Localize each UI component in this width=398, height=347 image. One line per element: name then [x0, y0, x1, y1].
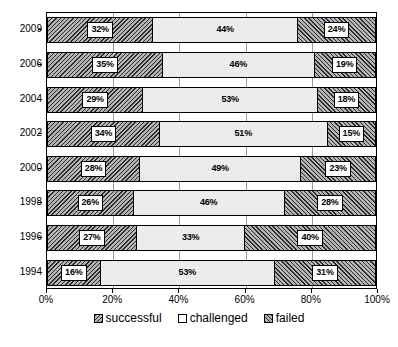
stacked-bar-chart: 20092006200420022000199819961994 32%44%2…	[0, 0, 398, 347]
data-label: 15%	[339, 126, 364, 142]
bar-segment-successful: 32%	[47, 17, 152, 43]
legend-swatch-successful-icon	[94, 314, 103, 323]
y-axis-tick	[38, 272, 42, 273]
data-label: 19%	[332, 57, 357, 73]
y-axis-label-1998: 1998	[2, 197, 42, 207]
data-label: 53%	[217, 92, 242, 108]
data-label: 24%	[324, 22, 349, 38]
bar-segment-failed: 18%	[317, 87, 376, 113]
y-axis-tick	[38, 237, 42, 238]
bar-segment-successful: 35%	[47, 52, 162, 78]
y-axis-tick	[38, 64, 42, 65]
bar-segment-failed: 19%	[314, 52, 377, 78]
legend-label: challenged	[190, 312, 248, 324]
bar-row: 16%53%31%	[47, 260, 376, 286]
bar-segment-failed: 15%	[327, 121, 376, 147]
x-axis-tick	[245, 289, 246, 293]
plot-inner: 32%44%24%35%46%19%29%53%18%34%51%15%28%4…	[47, 13, 376, 288]
data-label: 16%	[61, 265, 86, 281]
bar-segment-failed: 24%	[297, 17, 376, 43]
data-label: 46%	[226, 57, 251, 73]
y-axis-label-2009: 2009	[2, 24, 42, 34]
x-axis-label-80%: 80%	[301, 295, 321, 305]
bar-segment-failed: 40%	[244, 225, 376, 251]
bar-row: 29%53%18%	[47, 87, 376, 113]
legend-item-successful[interactable]: successful	[94, 312, 162, 324]
y-axis-tick	[38, 29, 42, 30]
y-axis-label-2000: 2000	[2, 163, 42, 173]
x-axis-tick	[46, 289, 47, 293]
plot-area: 32%44%24%35%46%19%29%53%18%34%51%15%28%4…	[46, 12, 377, 289]
data-label: 26%	[78, 195, 103, 211]
y-axis-label-2004: 2004	[2, 94, 42, 104]
bar-row: 27%33%40%	[47, 225, 376, 251]
y-axis-label-1996: 1996	[2, 232, 42, 242]
x-axis-tick	[377, 289, 378, 293]
data-label: 46%	[196, 195, 221, 211]
bar-segment-challenged: 46%	[133, 190, 284, 216]
bar-segment-challenged: 44%	[152, 17, 297, 43]
bar-row: 32%44%24%	[47, 17, 376, 43]
data-label: 33%	[178, 230, 203, 246]
bar-row: 34%51%15%	[47, 121, 376, 147]
y-axis-label-1994: 1994	[2, 267, 42, 277]
bar-segment-challenged: 53%	[142, 87, 316, 113]
bar-row: 26%46%28%	[47, 190, 376, 216]
data-label: 49%	[208, 161, 233, 177]
legend-label: failed	[276, 312, 305, 324]
data-label: 44%	[212, 22, 237, 38]
data-label: 34%	[91, 126, 116, 142]
bar-segment-challenged: 49%	[139, 156, 300, 182]
bar-segment-successful: 29%	[47, 87, 142, 113]
legend-swatch-failed-icon	[264, 314, 273, 323]
data-label: 51%	[231, 126, 256, 142]
x-axis-label-60%: 60%	[235, 295, 255, 305]
x-axis: 0%20%40%60%80%100%	[46, 289, 377, 313]
y-axis-tick	[38, 168, 42, 169]
data-label: 18%	[334, 92, 359, 108]
y-axis: 20092006200420022000199819961994	[0, 12, 42, 289]
x-axis-tick	[112, 289, 113, 293]
bar-segment-failed: 28%	[284, 190, 376, 216]
bar-segment-successful: 26%	[47, 190, 133, 216]
data-label: 31%	[312, 265, 337, 281]
x-axis-label-0%: 0%	[39, 295, 53, 305]
y-axis-label-2006: 2006	[2, 59, 42, 69]
bar-segment-failed: 31%	[274, 260, 376, 286]
legend-item-challenged[interactable]: challenged	[178, 312, 248, 324]
bar-segment-successful: 16%	[47, 260, 100, 286]
legend-label: successful	[106, 312, 162, 324]
bar-segment-challenged: 51%	[159, 121, 327, 147]
chart-legend: successfulchallengedfailed	[0, 312, 398, 324]
bar-segment-successful: 34%	[47, 121, 159, 147]
y-axis-tick	[38, 202, 42, 203]
data-label: 28%	[317, 195, 342, 211]
y-axis-tick	[38, 133, 42, 134]
bar-row: 28%49%23%	[47, 156, 376, 182]
data-label: 23%	[325, 161, 350, 177]
x-axis-tick	[311, 289, 312, 293]
x-axis-tick	[178, 289, 179, 293]
data-label: 53%	[175, 265, 200, 281]
bar-segment-failed: 23%	[300, 156, 376, 182]
y-axis-tick	[38, 99, 42, 100]
data-label: 29%	[82, 92, 107, 108]
bar-segment-challenged: 33%	[136, 225, 245, 251]
bar-row: 35%46%19%	[47, 52, 376, 78]
bar-segment-challenged: 46%	[162, 52, 313, 78]
x-axis-label-40%: 40%	[168, 295, 188, 305]
data-label: 27%	[79, 230, 104, 246]
x-axis-label-100%: 100%	[364, 295, 390, 305]
x-axis-label-20%: 20%	[102, 295, 122, 305]
bar-segment-successful: 28%	[47, 156, 139, 182]
data-label: 32%	[87, 22, 112, 38]
legend-item-failed[interactable]: failed	[264, 312, 305, 324]
data-label: 28%	[81, 161, 106, 177]
bar-segment-successful: 27%	[47, 225, 136, 251]
y-axis-label-2002: 2002	[2, 128, 42, 138]
legend-swatch-challenged-icon	[178, 314, 187, 323]
data-label: 40%	[297, 230, 322, 246]
bar-segment-challenged: 53%	[100, 260, 274, 286]
data-label: 35%	[92, 57, 117, 73]
